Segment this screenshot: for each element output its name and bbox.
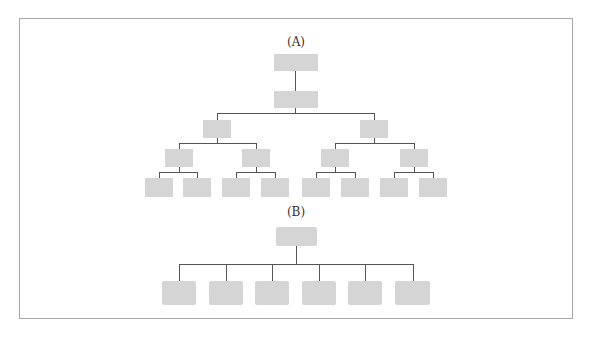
a-connector [217,113,375,114]
a-level3-node [242,149,270,167]
a-leaf-node [222,178,250,197]
b-connector [413,264,414,281]
a-connector [217,113,218,120]
b-connector [179,264,414,265]
a-connector [335,143,415,144]
b-child-node [395,281,430,305]
b-child-node [209,281,243,305]
b-connector [179,264,180,281]
b-connector [226,264,227,281]
a-leaf-node [183,178,211,197]
a-level3-node [321,149,349,167]
b-child-node [162,281,196,305]
b-root-node [276,227,317,246]
b-connector [272,264,273,281]
a-leaf-node [419,178,447,197]
a-level3-node [400,149,428,167]
a-leaf-node [380,178,408,197]
b-child-node [302,281,336,305]
a-connector [179,143,257,144]
a-leaf-node [145,178,173,197]
a-connector [394,172,434,173]
a-root-node [274,54,318,71]
a-connector [236,172,276,173]
a-connector [374,113,375,120]
b-child-node [255,281,289,305]
a-connector [316,172,356,173]
a-level2-node [360,120,388,138]
a-level3-node [165,149,193,167]
b-connector [319,264,320,281]
b-connector [296,246,297,264]
b-connector [365,264,366,281]
a-connector [159,172,198,173]
a-subroot-node [274,91,318,108]
a-leaf-node [302,178,330,197]
section-b-label: (B) [276,206,316,219]
section-a-label: (A) [276,36,316,49]
a-level2-node [203,120,231,138]
a-leaf-node [341,178,369,197]
a-leaf-node [261,178,289,197]
b-child-node [348,281,382,305]
a-connector [295,71,296,91]
